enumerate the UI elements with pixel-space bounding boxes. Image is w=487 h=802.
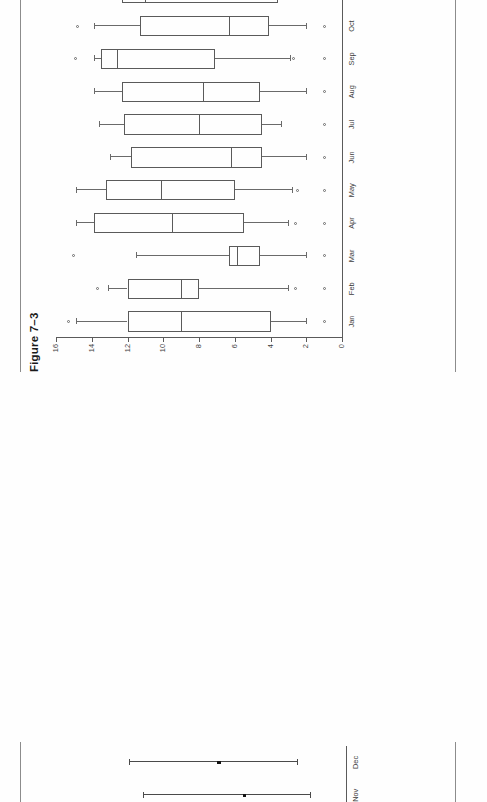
box-rect xyxy=(229,246,259,266)
box-median-line xyxy=(161,180,162,200)
box-median-line xyxy=(181,311,182,331)
figure-7-2-bottom-rule xyxy=(455,742,456,802)
value-tick xyxy=(235,338,236,342)
box-whisker-lower xyxy=(199,288,288,289)
box-outlier-marker xyxy=(323,57,326,60)
figure-7-3-plot: 1614121086420JanFebMarAprMayJunJulAugSep… xyxy=(56,0,368,372)
box-rect xyxy=(128,311,271,331)
box-whisker-upper xyxy=(94,91,123,92)
box-outlier-marker xyxy=(292,57,295,60)
box-outlier-marker xyxy=(67,320,70,323)
box-outlier-marker xyxy=(72,254,75,257)
box-outlier-marker xyxy=(76,25,79,28)
box-median-line xyxy=(229,16,230,36)
box-whisker-upper xyxy=(94,58,101,59)
box-outlier-marker xyxy=(323,222,326,225)
interval-line xyxy=(143,794,310,795)
category-tick-label: Jan xyxy=(347,308,356,336)
box-rect xyxy=(94,213,244,233)
box-outlier-marker xyxy=(323,254,326,257)
figure-7-3-title: Figure 7–3 xyxy=(28,312,40,372)
box-median-line xyxy=(199,114,200,134)
category-tick-label: Apr xyxy=(347,209,356,237)
scanned-page: Figure 7–3 1614121086420JanFebMarAprMayJ… xyxy=(0,0,487,802)
category-tick-label: Mar xyxy=(347,242,356,270)
box-whisker-lower xyxy=(260,255,306,256)
box-median-line xyxy=(237,246,238,266)
box-whisker-upper xyxy=(110,156,131,157)
box-whisker-cap-lower xyxy=(306,252,307,258)
box-rect xyxy=(140,16,269,36)
box-whisker-cap-lower xyxy=(306,23,307,29)
box-whisker-cap-lower xyxy=(306,88,307,94)
value-tick xyxy=(271,338,272,342)
box-whisker-cap-lower xyxy=(290,55,291,61)
box-whisker-lower xyxy=(215,58,290,59)
box-whisker-upper xyxy=(94,25,140,26)
box-whisker-cap-upper xyxy=(94,55,95,61)
box-whisker-cap-upper xyxy=(110,154,111,160)
box-outlier-marker xyxy=(296,189,299,192)
value-tick xyxy=(342,338,343,342)
box-whisker-cap-lower xyxy=(288,220,289,226)
box-outlier-marker xyxy=(74,57,77,60)
box-outlier-marker xyxy=(96,287,99,290)
box-whisker-cap-lower xyxy=(288,285,289,291)
box-median-line xyxy=(145,0,146,3)
figure-7-2-top-rule xyxy=(20,742,21,802)
box-whisker-upper xyxy=(76,222,94,223)
box-outlier-marker xyxy=(294,287,297,290)
box-median-line xyxy=(172,213,173,233)
box-whisker-cap-lower xyxy=(292,187,293,193)
box-whisker-upper xyxy=(76,321,128,322)
box-whisker-upper xyxy=(99,124,124,125)
box-whisker-lower xyxy=(244,222,289,223)
box-whisker-upper xyxy=(76,189,106,190)
value-tick xyxy=(199,338,200,342)
value-tick-label: 12 xyxy=(123,344,132,372)
box-whisker-lower xyxy=(271,321,307,322)
box-median-line xyxy=(231,147,232,167)
box-rect xyxy=(122,82,260,102)
category-axis-line xyxy=(346,746,347,802)
category-tick-label: Nov xyxy=(347,0,356,7)
category-tick-label: Sep xyxy=(347,45,356,73)
box-whisker-cap-upper xyxy=(76,187,77,193)
box-whisker-cap-lower xyxy=(281,121,282,127)
interval-mean-marker xyxy=(243,794,246,797)
box-whisker-cap-upper xyxy=(76,220,77,226)
box-whisker-cap-lower xyxy=(306,318,307,324)
value-tick-label: 14 xyxy=(87,344,96,372)
box-whisker-cap-upper xyxy=(76,318,77,324)
box-whisker-lower xyxy=(235,189,292,190)
interval-cap-upper xyxy=(143,792,144,798)
value-tick xyxy=(56,338,57,342)
box-whisker-lower xyxy=(260,91,306,92)
figure-7-2-block: Figure 7–2 121110987654JanFebMarAprMayJu… xyxy=(0,400,487,802)
box-whisker-lower xyxy=(262,156,307,157)
figure-7-3-top-rule xyxy=(20,0,21,372)
value-tick-label: 10 xyxy=(158,344,167,372)
category-axis-line xyxy=(342,0,343,338)
figure-7-3-bottom-rule xyxy=(455,0,456,372)
box-median-line xyxy=(117,49,118,69)
box-whisker-cap-upper xyxy=(108,285,109,291)
interval-cap-upper xyxy=(129,759,130,765)
box-whisker-cap-lower xyxy=(306,154,307,160)
category-tick-label: Jul xyxy=(347,111,356,139)
box-rect xyxy=(128,279,200,299)
box-rect xyxy=(101,49,215,69)
box-whisker-lower xyxy=(269,25,307,26)
box-outlier-marker xyxy=(323,25,326,28)
figure-7-3-block: Figure 7–3 1614121086420JanFebMarAprMayJ… xyxy=(0,0,487,400)
box-whisker-cap-upper xyxy=(94,23,95,29)
value-tick xyxy=(163,338,164,342)
box-outlier-marker xyxy=(323,287,326,290)
box-outlier-marker xyxy=(323,123,326,126)
box-outlier-marker xyxy=(323,90,326,93)
box-outlier-marker xyxy=(294,222,297,225)
value-tick xyxy=(306,338,307,342)
value-tick xyxy=(92,338,93,342)
interval-line xyxy=(129,761,298,762)
interval-mean-marker xyxy=(217,761,220,764)
